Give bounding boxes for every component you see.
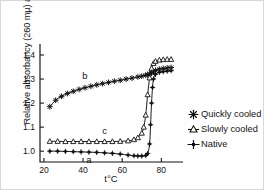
svg-text:80: 80 [157,165,167,175]
svg-text:40: 40 [78,165,88,175]
data-curves [47,57,174,159]
figure-panel: Relative absorbancy (260 mµ) at t°C t°C … [0,0,264,190]
legend-item-native[interactable]: Native [187,137,261,152]
star-marker-icon [187,108,200,121]
legend-item-quickly-cooled[interactable]: Quickly cooled [187,107,261,122]
svg-text:1.0: 1.0 [23,146,35,156]
svg-text:1.4: 1.4 [23,50,35,60]
svg-text:60: 60 [117,165,127,175]
filled-plus-marker-icon [187,138,200,151]
svg-text:a: a [86,154,92,165]
plot-area: 1.01.11.21.31.420406080 bca [1,1,264,190]
svg-text:1.3: 1.3 [23,74,35,84]
legend-label: Quickly cooled [200,110,261,119]
svg-text:b: b [82,70,87,81]
svg-text:c: c [102,125,107,136]
legend: Quickly cooled Slowly cooled Native [187,107,261,152]
legend-item-slowly-cooled[interactable]: Slowly cooled [187,122,261,137]
legend-label: Native [200,140,227,149]
svg-text:20: 20 [39,165,49,175]
open-triangle-marker-icon [187,123,200,136]
legend-label: Slowly cooled [200,125,258,134]
svg-text:1.1: 1.1 [23,122,35,132]
svg-text:1.2: 1.2 [23,98,35,108]
